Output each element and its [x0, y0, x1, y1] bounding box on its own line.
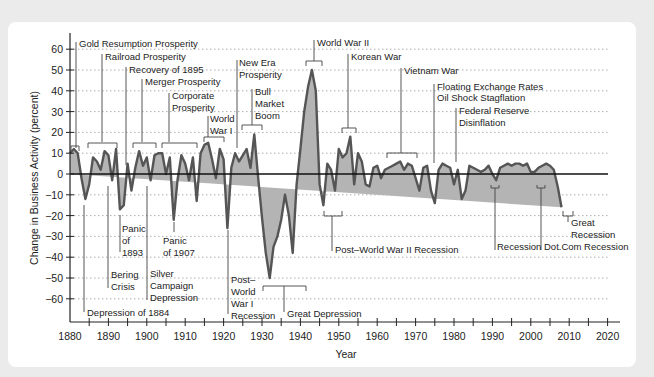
annotation-ww2: World War II	[317, 37, 369, 48]
annotation-bull-3: Boom	[255, 110, 280, 121]
x-axis-label: Year	[335, 348, 357, 360]
annotation-newera-1: New Era	[239, 57, 276, 68]
x-tick-label: 2000	[519, 330, 543, 342]
annotation-vietnam: Vietnam War	[404, 65, 458, 76]
x-tick-label: 1890	[97, 330, 121, 342]
x-tick-label: 1920	[212, 330, 236, 342]
annotation-postww1-2: World	[231, 286, 256, 297]
x-tick-label: 2020	[596, 330, 620, 342]
y-tick-label: 30	[51, 106, 63, 118]
annotation-bull-1: Bull	[255, 86, 271, 97]
x-tick-label: 1980	[442, 330, 466, 342]
annotation-bering-2: Crisis	[111, 281, 135, 292]
y-tick-label: 50	[51, 64, 63, 76]
annotation-silver-1: Silver	[150, 268, 174, 279]
annotation-ww1-1: World	[210, 113, 235, 124]
annotation-merger: Merger Prosperity	[145, 76, 221, 87]
y-tick-label: −50	[45, 272, 63, 284]
y-tick-label: −60	[45, 293, 63, 305]
y-tick-label: −20	[45, 210, 63, 222]
annotation-panic1893-1: Panic	[122, 223, 146, 234]
annotation-bering-1: Bering	[111, 269, 138, 280]
x-tick-label: 1960	[366, 330, 390, 342]
annotation-great-recession-1: Great	[571, 217, 595, 228]
y-tick-label: 40	[51, 85, 63, 97]
business-activity-chart: 6050403020100−10−20−30−40−50−60 18801890…	[0, 0, 654, 377]
y-axis-label: Change in Business Activity (percent)	[28, 91, 40, 265]
y-tick-label: −40	[45, 251, 63, 263]
annotation-silver-2: Campaign	[150, 280, 193, 291]
x-tick-label: 1910	[174, 330, 198, 342]
annotation-postww1-3: War I	[231, 298, 253, 309]
x-tick-label: 1950	[327, 330, 351, 342]
y-tick-label: 60	[51, 43, 63, 55]
x-tick-label: 1970	[404, 330, 428, 342]
x-tick-label: 1900	[135, 330, 159, 342]
annotation-bull-2: Market	[255, 98, 284, 109]
annotation-postww1-1: Post–	[231, 274, 256, 285]
annotation-postww1-4: Recession	[231, 310, 275, 321]
annotation-recovery-1895: Recovery of 1895	[129, 64, 203, 75]
annotation-railroad: Railroad Prosperity	[105, 51, 186, 62]
y-tick-label: 10	[51, 147, 63, 159]
x-tick-label: 2010	[558, 330, 582, 342]
x-tick-label: 1880	[58, 330, 82, 342]
annotation-panic1893-2: of	[122, 235, 130, 246]
annotation-dotcom: Dot.Com Recession	[544, 241, 628, 252]
annotation-gold-resumption: Gold Resumption Prosperity	[79, 38, 198, 49]
annotation-floating-2: Oil Shock Stagflation	[437, 92, 525, 103]
annotation-corporate-2: Prosperity	[172, 102, 215, 113]
x-tick-label: 1930	[250, 330, 274, 342]
y-tick-label: 20	[51, 126, 63, 138]
annotation-ww1-2: War I	[210, 125, 232, 136]
annotation-postww2: Post–World War II Recession	[335, 244, 459, 255]
annotation-panic1907-2: of 1907	[163, 247, 195, 258]
annotation-corporate-1: Corporate	[172, 90, 214, 101]
y-tick-label: −10	[45, 189, 63, 201]
annotation-fed-2: Disinflation	[459, 117, 505, 128]
y-tick-label: 0	[57, 168, 63, 180]
annotation-depression-1884: Depression of 1884	[87, 307, 169, 318]
annotation-newera-2: Prosperity	[239, 69, 282, 80]
annotation-great-recession-2: Recession	[571, 229, 615, 240]
x-tick-label: 1990	[481, 330, 505, 342]
annotation-panic1907-1: Panic	[163, 235, 187, 246]
x-tick-label: 1940	[289, 330, 313, 342]
annotation-floating-1: Floating Exchange Rates	[437, 81, 543, 92]
annotation-recession-1990: Recession	[497, 241, 541, 252]
annotation-silver-3: Depression	[150, 292, 198, 303]
y-tick-label: −30	[45, 230, 63, 242]
annotation-panic1893-3: 1893	[122, 247, 143, 258]
annotation-korean: Korean War	[351, 51, 401, 62]
annotation-great-depression: Great Depression	[287, 308, 361, 319]
annotation-fed-1: Federal Reserve	[459, 105, 529, 116]
